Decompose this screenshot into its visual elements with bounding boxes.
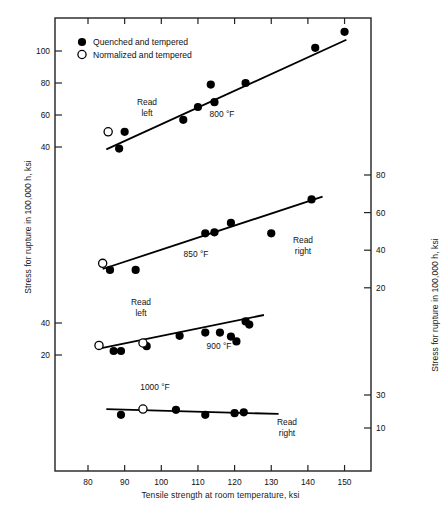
read-annotation-850f: Read [293,235,313,245]
y-tick-label-left: 100 [36,46,50,56]
data-point-filled [201,229,209,237]
data-point-filled [340,28,348,36]
read-annotation-800f-dir: left [141,108,153,118]
legend-marker-filled-circle-icon [78,38,86,46]
data-point-filled [227,219,235,227]
read-annotation-900f-dir: left [135,308,147,318]
data-point-filled [241,79,249,87]
x-tick-label: 110 [191,477,205,487]
y-tick-label-left: 60 [41,110,51,120]
legend-label-quenched: Quenched and tempered [93,37,188,47]
data-point-open [104,128,112,136]
data-point-filled [232,337,240,345]
y-tick-label-left: 20 [41,350,51,360]
annotation-layer: 800 °F850 °F900 °F1000 °FReadleftReadrig… [131,97,313,438]
data-point-filled [311,44,319,52]
read-annotation-1000f: Read [277,417,297,427]
data-point-filled [201,329,209,337]
y-tick-label-right: 20 [376,283,386,293]
chart-legend: Quenched and tempered Normalized and tem… [78,37,192,60]
data-point-open [99,259,107,267]
data-point-filled [267,229,275,237]
series-1000-f [106,405,278,419]
x-tick-label: 140 [301,477,315,487]
legend-label-normalized: Normalized and tempered [93,50,192,60]
y-tick-label-right: 60 [376,208,386,218]
y-axis-right-ticks: 806040203010 [364,170,386,433]
trend-line [106,409,278,414]
data-point-filled [110,347,118,355]
series-900-f [95,315,264,355]
data-point-filled [210,98,218,106]
series-850-f [99,195,323,274]
y-tick-label-right: 30 [376,390,386,400]
x-tick-label: 130 [264,477,278,487]
data-point-open [139,405,147,413]
legend-marker-open-circle-icon [78,50,86,58]
read-annotation-1000f-dir: right [279,428,296,438]
chart-figure: Stress for rupture in 100,000 h, ksi Str… [0,0,441,513]
data-point-filled [245,321,253,329]
x-tick-label: 120 [228,477,242,487]
data-point-filled [117,411,125,419]
data-point-filled [121,128,129,136]
series-label-800f: 800 °F [210,109,235,119]
data-point-filled [210,228,218,236]
read-annotation-800f: Read [137,97,157,107]
series-label-1000f: 1000 °F [140,382,169,392]
data-point-filled [307,195,315,203]
data-point-filled [240,408,248,416]
read-annotation-900f: Read [131,297,151,307]
series-label-900f: 900 °F [207,341,232,351]
data-point-filled [176,332,184,340]
y-tick-label-left: 40 [41,318,51,328]
data-point-filled [106,266,114,274]
series-layer [95,28,349,419]
y-axis-left-ticks: 1008060404020 [36,46,62,360]
x-tick-label: 150 [338,477,352,487]
read-annotation-850f-dir: right [295,246,312,256]
data-point-open [139,339,147,347]
y-tick-label-right: 10 [376,423,386,433]
data-point-filled [216,329,224,337]
data-point-filled [115,145,123,153]
data-point-filled [194,103,202,111]
data-point-filled [132,266,140,274]
y-tick-label-left: 40 [41,142,51,152]
data-point-filled [172,406,180,414]
x-tick-label: 100 [154,477,168,487]
x-tick-label: 80 [83,477,93,487]
y-tick-label-left: 80 [41,78,51,88]
plot-canvas: 8090100110120130140150 1008060404020 806… [0,0,441,513]
data-point-filled [207,81,215,89]
data-point-filled [231,409,239,417]
data-point-filled [179,116,187,124]
data-point-filled [117,347,125,355]
series-label-850f: 850 °F [184,249,209,259]
y-tick-label-right: 80 [376,170,386,180]
y-tick-label-right: 40 [376,245,386,255]
data-point-open [95,341,103,349]
data-point-filled [201,411,209,419]
x-tick-label: 90 [120,477,130,487]
